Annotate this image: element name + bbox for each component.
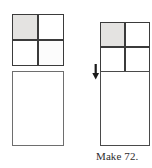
left-square-horizontal-divider <box>13 39 63 41</box>
right-partitioned-square <box>100 22 150 72</box>
caption-text: Make 72. <box>96 150 152 163</box>
right-square-cell-bottom-left <box>101 47 125 71</box>
right-square-cell-top-left <box>101 23 125 47</box>
left-partitioned-square <box>12 14 64 66</box>
right-square-cell-bottom-right <box>125 47 149 71</box>
left-square-cell-bottom-right <box>38 40 63 65</box>
left-square-cell-top-right <box>38 15 63 40</box>
left-square-cell-bottom-left <box>13 40 38 65</box>
left-square-cell-top-left <box>13 15 38 40</box>
right-square-cell-top-right <box>125 23 149 47</box>
right-blank-rectangle <box>100 71 150 146</box>
left-blank-rectangle <box>12 71 64 146</box>
right-square-horizontal-divider <box>101 46 149 48</box>
diagram-canvas: Make 72. <box>0 0 152 168</box>
